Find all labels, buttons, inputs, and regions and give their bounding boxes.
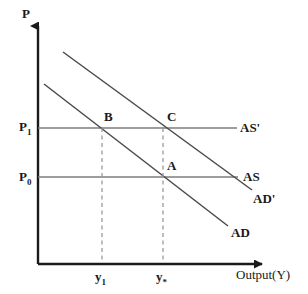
price-level-p0-base: P: [19, 169, 27, 184]
x-axis-label: Output(Y): [236, 268, 290, 281]
curve-label-ad-prime: AD': [253, 192, 275, 205]
quantity-ystar-sub: *: [163, 277, 168, 287]
price-level-p0-sub: 0: [27, 177, 32, 187]
quantity-y1-sub: 1: [102, 277, 107, 287]
curve-label-ad: AD: [231, 226, 250, 239]
ad-as-diagram-canvas: P Output(Y) P1 P0 y1 y* B C A AS' AS AD'…: [0, 0, 308, 294]
diagram-svg: [0, 0, 308, 294]
price-level-label-p0: P0: [19, 170, 31, 187]
price-level-p1-sub: 1: [27, 127, 32, 137]
price-level-label-p1: P1: [19, 120, 31, 137]
point-label-b: B: [104, 110, 113, 123]
curve-label-as-prime: AS': [240, 121, 260, 134]
y-axis-label: P: [22, 7, 30, 20]
price-level-p1-base: P: [19, 119, 27, 134]
quantity-label-ystar: y*: [156, 270, 167, 287]
point-label-a: A: [167, 159, 176, 172]
point-label-c: C: [167, 110, 176, 123]
quantity-label-y1: y1: [95, 270, 106, 287]
curve-label-as: AS: [243, 170, 260, 183]
